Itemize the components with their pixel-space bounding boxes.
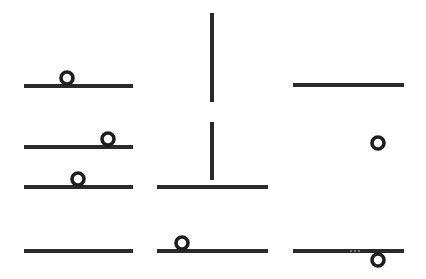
piece-r2c2[interactable] <box>157 122 268 187</box>
piece-r3c2[interactable] <box>157 237 268 251</box>
ring-icon <box>72 173 84 185</box>
piece-r3c3[interactable] <box>293 250 404 266</box>
puzzle-board <box>0 0 426 279</box>
ring-icon <box>61 72 73 84</box>
dot-icon <box>358 250 360 252</box>
ring-icon <box>176 237 188 249</box>
ring-icon <box>372 137 384 149</box>
dot-icon <box>354 250 356 252</box>
piece-r2c1b[interactable] <box>24 173 133 187</box>
ring-icon <box>102 133 114 145</box>
ring-icon <box>372 254 384 266</box>
piece-r2c3[interactable] <box>372 137 384 149</box>
piece-r2c1a[interactable] <box>24 133 133 147</box>
piece-r1c1[interactable] <box>24 72 133 86</box>
dot-icon <box>350 250 352 252</box>
